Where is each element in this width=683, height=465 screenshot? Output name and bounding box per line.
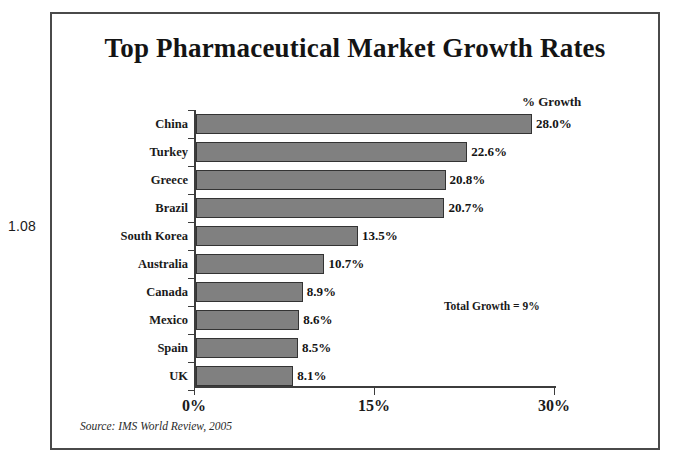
bar-category-label: UK [58,366,188,386]
category-tick [188,110,194,111]
bar-category-label: Turkey [58,142,188,162]
bar-row: China28.0% [52,114,658,142]
bar[interactable] [196,198,444,218]
bar-value-label: 20.8% [446,170,486,190]
value-tick-label: 15% [358,397,390,415]
bar[interactable] [196,282,303,302]
value-tick-label: 30% [538,397,570,415]
bar-track [196,254,556,274]
value-tick-label: 0% [182,397,206,415]
category-tick [188,222,194,223]
bar[interactable] [196,254,324,274]
category-tick [188,334,194,335]
bar-category-label: South Korea [58,226,188,246]
bar-row: Brazil20.7% [52,198,658,226]
bar-row: Mexico8.6% [52,310,658,338]
plot-area: China28.0%Turkey22.6%Greece20.8%Brazil20… [52,14,658,448]
bar-row: Turkey22.6% [52,142,658,170]
bar[interactable] [196,114,532,134]
bar-row: South Korea13.5% [52,226,658,254]
bar-value-label: 20.7% [444,198,484,218]
category-tick [188,194,194,195]
bar-value-label: 28.0% [532,114,572,134]
chart-frame: Top Pharmaceutical Market Growth Rates %… [50,12,660,450]
bar-value-label: 13.5% [358,226,398,246]
bar-row: Greece20.8% [52,170,658,198]
bar-track [196,338,556,358]
bar[interactable] [196,338,298,358]
figure-number: 1.08 [8,218,36,234]
bar-row: Spain8.5% [52,338,658,366]
total-growth-annotation: Total Growth = 9% [444,300,540,312]
category-tick [188,166,194,167]
bar-value-label: 10.7% [324,254,364,274]
bar-category-label: Spain [58,338,188,358]
bar[interactable] [196,310,299,330]
bar-value-label: 8.9% [303,282,336,302]
bar[interactable] [196,142,467,162]
bar-value-label: 22.6% [467,142,507,162]
category-tick [188,138,194,139]
bar-value-label: 8.6% [299,310,332,330]
bar-track [196,366,556,386]
bar-category-label: Australia [58,254,188,274]
bar-row: Australia10.7% [52,254,658,282]
value-tick [554,388,555,395]
bar-track [196,310,556,330]
bar-row: UK8.1% [52,366,658,394]
bar-category-label: China [58,114,188,134]
category-tick [188,362,194,363]
value-tick [194,388,195,395]
bar-value-label: 8.1% [293,366,326,386]
bar-value-label: 8.5% [298,338,331,358]
bar[interactable] [196,170,446,190]
bar-track [196,170,556,190]
bar-category-label: Brazil [58,198,188,218]
bar-category-label: Canada [58,282,188,302]
bar[interactable] [196,226,358,246]
bar-category-label: Greece [58,170,188,190]
category-tick [188,306,194,307]
category-tick [188,278,194,279]
bar-track [196,282,556,302]
bar-category-label: Mexico [58,310,188,330]
bar-row: Canada8.9% [52,282,658,310]
bar[interactable] [196,366,293,386]
bar-track [196,114,556,134]
source-note: Source: IMS World Review, 2005 [80,420,232,432]
bar-track [196,198,556,218]
value-tick [374,388,375,395]
category-tick [188,250,194,251]
